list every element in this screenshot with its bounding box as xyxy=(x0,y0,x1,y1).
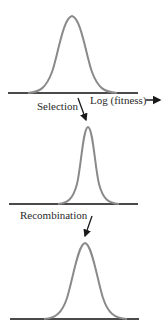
fitness-curve-initial xyxy=(28,16,117,93)
panel-after-recombination xyxy=(10,243,139,319)
panel-after-selection xyxy=(9,127,138,204)
step-label-recombination: Recombination xyxy=(20,209,87,221)
fitness-curve-after-selection xyxy=(58,127,119,204)
step-label-selection: Selection xyxy=(37,100,78,112)
panel-initial-distribution xyxy=(8,16,138,93)
selection-arrow-icon xyxy=(78,98,86,120)
diagram-canvas xyxy=(0,0,166,329)
axis-label-log-fitness: Log (fitness) xyxy=(90,94,147,106)
fitness-curve-after-recombination xyxy=(44,243,127,319)
